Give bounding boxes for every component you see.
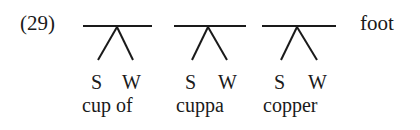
word-cup-of: cup of bbox=[82, 95, 133, 115]
foot-level-label: foot bbox=[360, 13, 394, 34]
strong-label: S bbox=[274, 72, 285, 92]
weak-label: W bbox=[308, 72, 327, 92]
weak-label: W bbox=[122, 72, 141, 92]
strong-label: S bbox=[185, 72, 196, 92]
word-cuppa: cuppa bbox=[176, 95, 224, 115]
word-copper: copper bbox=[263, 95, 317, 115]
strong-label: S bbox=[91, 72, 102, 92]
weak-label: W bbox=[218, 72, 237, 92]
